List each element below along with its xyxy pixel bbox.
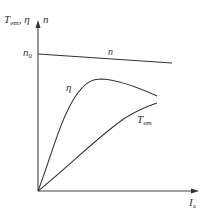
n-curve-label: n [108,47,113,57]
y-axis-arrow-icon [36,20,41,28]
tem-sub: em [143,119,152,127]
tem-curve-label: Tem [137,114,152,127]
x-axis-label: Ia [189,197,196,210]
y-axis-right-label: n [43,14,49,25]
x-sub: a [193,202,196,210]
y-left-label-sub: em [10,19,19,27]
characteristic-diagram: Tem, η n n0 n η Tem Ia [0,0,207,218]
eta-curve [38,79,157,191]
eta-curve-label: η [66,82,71,93]
n-curve [38,54,172,63]
n0-tick-label: n0 [23,47,32,60]
y-axis-left-label: Tem, η [4,14,30,27]
x-axis-arrow-icon [191,189,199,194]
plot-area [0,0,207,218]
y-left-label-eta: , η [19,13,30,25]
n0-sub: 0 [29,52,33,60]
